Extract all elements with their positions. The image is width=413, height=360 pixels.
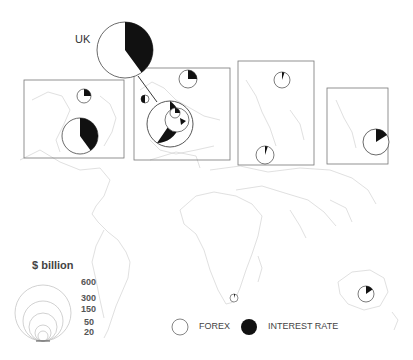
- size-legend-value: 600: [81, 277, 96, 287]
- interest-rate-swatch-icon: [241, 319, 257, 335]
- pie-australia: [358, 286, 374, 302]
- size-legend-value: 300: [81, 293, 96, 303]
- world-map: [0, 0, 413, 360]
- size-legend-value: 50: [84, 317, 94, 327]
- pie-uk: [97, 22, 153, 78]
- pie-europe-west-small: [141, 95, 149, 103]
- pie-asia-north: [274, 72, 290, 88]
- pie-na-lower: [62, 118, 98, 154]
- pie-na-upper: [77, 89, 91, 103]
- size-legend-value: 150: [81, 304, 96, 314]
- uk-label: UK: [75, 33, 90, 45]
- size-legend-value: 20: [84, 327, 94, 337]
- legend-label-interest-rate: INTEREST RATE: [268, 321, 338, 331]
- pie-south-africa: [230, 294, 238, 302]
- pie-asia-south: [256, 146, 274, 164]
- pie-europe-large: [147, 101, 193, 147]
- legend-label-forex: FOREX: [199, 321, 230, 331]
- size-legend-title: $ billion: [32, 259, 74, 271]
- pie-east-asia: [363, 129, 389, 155]
- forex-swatch-icon: [172, 319, 188, 335]
- size-legend-circles: [15, 285, 71, 341]
- pie-europe-ne: [179, 70, 197, 88]
